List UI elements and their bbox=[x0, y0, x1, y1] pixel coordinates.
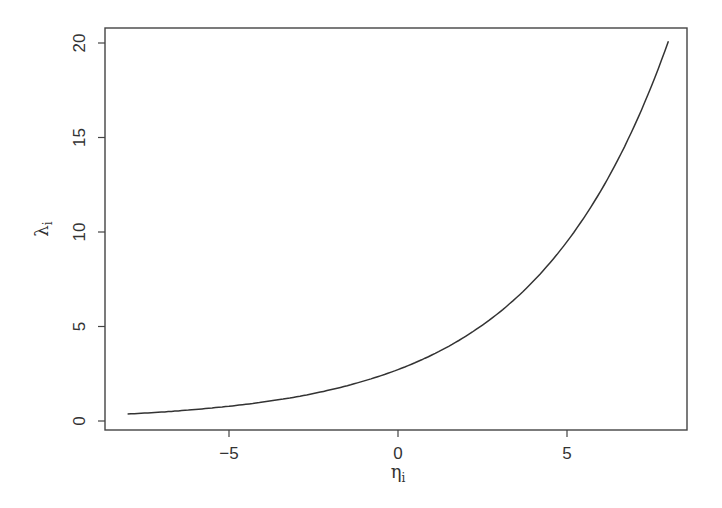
y-tick-label: 20 bbox=[70, 34, 89, 53]
x-tick-label: −5 bbox=[219, 444, 238, 463]
x-axis: −505 bbox=[219, 430, 571, 463]
y-axis: 05101520 bbox=[70, 34, 105, 426]
y-tick-label: 10 bbox=[70, 223, 89, 242]
y-axis-label: λi bbox=[31, 221, 55, 236]
data-line bbox=[128, 41, 669, 414]
chart: −505 05101520 ηi λi bbox=[0, 0, 722, 508]
y-tick-label: 15 bbox=[70, 128, 89, 147]
y-tick-label: 0 bbox=[70, 416, 89, 425]
y-tick-label: 5 bbox=[70, 322, 89, 331]
x-axis-label: ηi bbox=[391, 461, 406, 485]
x-tick-label: 5 bbox=[562, 444, 571, 463]
